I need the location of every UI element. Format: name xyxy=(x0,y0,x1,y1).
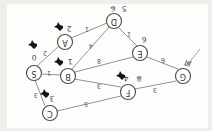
node-c-label: C xyxy=(47,109,53,118)
edge-group xyxy=(35,23,178,111)
node-c[interactable]: C xyxy=(43,106,58,121)
edge-a-s xyxy=(37,46,59,66)
node-g[interactable]: G xyxy=(176,69,191,84)
node-g-label: G xyxy=(180,72,186,81)
node-group: S C B A F xyxy=(27,14,191,121)
node-a[interactable]: A xyxy=(58,35,73,50)
graph-diagram: 3 6 8 1 3 5 3 1 4 1 2 S C xyxy=(0,0,212,131)
edge-e-b xyxy=(75,57,133,72)
node-d-label: D xyxy=(111,17,117,26)
edge-weight-d-a: 1 xyxy=(85,25,89,33)
edge-weight-f-c: 5 xyxy=(84,100,88,108)
distance-struck-d: 6 xyxy=(110,4,115,13)
distance-label-s: 0 xyxy=(31,53,36,62)
ink-blot-group xyxy=(28,22,125,98)
edge-f-c xyxy=(57,96,121,111)
node-b[interactable]: B xyxy=(61,69,76,84)
distance-struck-f: 8 xyxy=(136,74,141,83)
node-b-label: B xyxy=(65,72,71,81)
edge-weight-b-d: 4 xyxy=(89,42,93,50)
edge-weight-e-d: 1 xyxy=(127,30,131,38)
screenshot-canvas: 3 6 8 1 3 5 3 1 4 1 2 S C xyxy=(0,0,212,131)
ink-blot-b xyxy=(54,57,63,66)
ink-blot-s xyxy=(28,40,37,49)
distance-label-b: 1 xyxy=(67,57,72,66)
distance-label-e: 6 xyxy=(141,35,146,44)
edge-weight-e-b: 8 xyxy=(97,57,101,65)
edge-weight-a-s: 2 xyxy=(43,49,47,57)
distance-label-d: 5 xyxy=(121,4,126,13)
node-a-label: A xyxy=(62,38,68,47)
node-e[interactable]: E xyxy=(133,46,148,61)
edge-weight-g-f: 3 xyxy=(153,86,157,94)
edge-weight-c-s: 3 xyxy=(34,91,38,99)
graph-svg: 3 6 8 1 3 5 3 1 4 1 2 S C xyxy=(0,0,212,131)
distance-label-a: 2 xyxy=(66,24,71,33)
node-d[interactable]: D xyxy=(107,14,122,29)
distance-label-c: 3 xyxy=(49,94,54,103)
edge-weight-g-e: 6 xyxy=(161,56,165,64)
node-f-label: F xyxy=(125,88,130,97)
node-s-label: S xyxy=(31,69,36,78)
node-s[interactable]: S xyxy=(27,66,42,81)
ink-blot-a xyxy=(54,22,63,31)
node-f[interactable]: F xyxy=(121,85,136,100)
edge-weight-b-s: 1 xyxy=(47,69,51,77)
node-e-label: E xyxy=(137,49,142,58)
edge-weight-f-b: 3 xyxy=(97,82,101,90)
